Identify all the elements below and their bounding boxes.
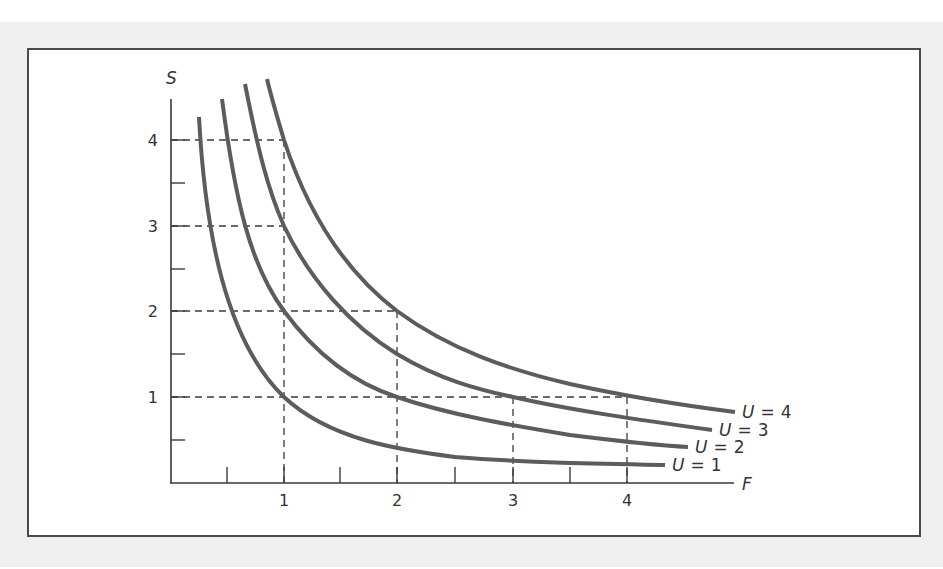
- indifference-curves: [199, 79, 735, 465]
- svg-text:1: 1: [279, 491, 289, 510]
- indifference-curve-chart: 1 2 3 4 1 2 3 4 S F U=1 U=2 U=3 U=4: [0, 0, 943, 569]
- y-tick-labels: 1 2 3 4: [148, 131, 158, 407]
- svg-text:4: 4: [622, 491, 632, 510]
- x-axis-ticks: [227, 467, 627, 483]
- svg-text:1: 1: [148, 388, 158, 407]
- curve-label-u3: U=3: [719, 420, 769, 440]
- y-axis-label: S: [166, 68, 177, 88]
- curve-label-u4: U=4: [742, 402, 792, 422]
- svg-text:2: 2: [148, 302, 158, 321]
- curve-label-u1: U=1: [672, 455, 722, 475]
- x-tick-labels: 1 2 3 4: [279, 491, 632, 510]
- curve-u3: [245, 84, 712, 430]
- svg-text:3: 3: [508, 491, 518, 510]
- y-axis-ticks: [171, 140, 185, 440]
- svg-text:2: 2: [392, 491, 402, 510]
- curve-label-u2: U=2: [695, 437, 745, 457]
- x-axis-label: F: [742, 474, 752, 494]
- svg-text:3: 3: [148, 217, 158, 236]
- curve-u4: [267, 79, 735, 412]
- axes: [170, 99, 734, 483]
- svg-text:4: 4: [148, 131, 158, 150]
